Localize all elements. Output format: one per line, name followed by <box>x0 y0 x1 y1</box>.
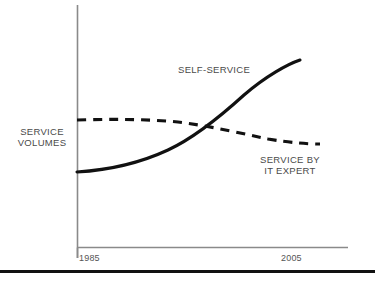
x-tick-label-1985: 1985 <box>79 253 100 264</box>
y-axis-title-line1: SERVICE <box>20 126 64 137</box>
series-label-it-expert-line1: SERVICE BY <box>260 154 320 165</box>
series-label-it-expert: SERVICE BYIT EXPERT <box>250 154 330 176</box>
x-tick-label-2005: 2005 <box>281 253 302 264</box>
bottom-divider-rule <box>0 270 375 273</box>
series-label-self-service: SELF-SERVICE <box>178 64 250 75</box>
y-axis-title: SERVICEVOLUMES <box>12 126 72 148</box>
y-axis-title-line2: VOLUMES <box>18 137 67 148</box>
chart-figure: SERVICEVOLUMES SELF-SERVICE SERVICE BYIT… <box>0 0 375 286</box>
series-label-it-expert-line2: IT EXPERT <box>264 165 315 176</box>
